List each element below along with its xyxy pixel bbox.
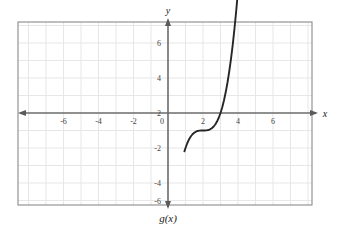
x-tick-label--2: -2 (130, 117, 137, 126)
x-tick-label--6: -6 (60, 117, 67, 126)
y-axis-label: y (165, 5, 171, 16)
y-tick-label--2: -2 (154, 144, 161, 153)
y-tick-label--6: -6 (154, 197, 161, 206)
graph-figure: -6 -4 -2 0 2 4 6 6 4 2 -2 -4 -6 x y g(x) (0, 0, 338, 234)
x-tick-label-0: 0 (160, 117, 164, 126)
figure-background (0, 0, 338, 234)
y-tick-label-2: 2 (157, 109, 161, 118)
x-tick-label--4: -4 (95, 117, 102, 126)
x-tick-label-6: 6 (271, 117, 275, 126)
x-tick-label-2: 2 (201, 117, 205, 126)
x-tick-label-4: 4 (236, 117, 240, 126)
x-axis-label: x (322, 108, 328, 119)
coordinate-plane-svg: -6 -4 -2 0 2 4 6 6 4 2 -2 -4 -6 x y g(x) (0, 0, 338, 234)
y-tick-label-6: 6 (157, 39, 161, 48)
y-tick-label-4: 4 (157, 74, 161, 83)
y-tick-label--4: -4 (154, 179, 161, 188)
function-label: g(x) (159, 212, 177, 225)
